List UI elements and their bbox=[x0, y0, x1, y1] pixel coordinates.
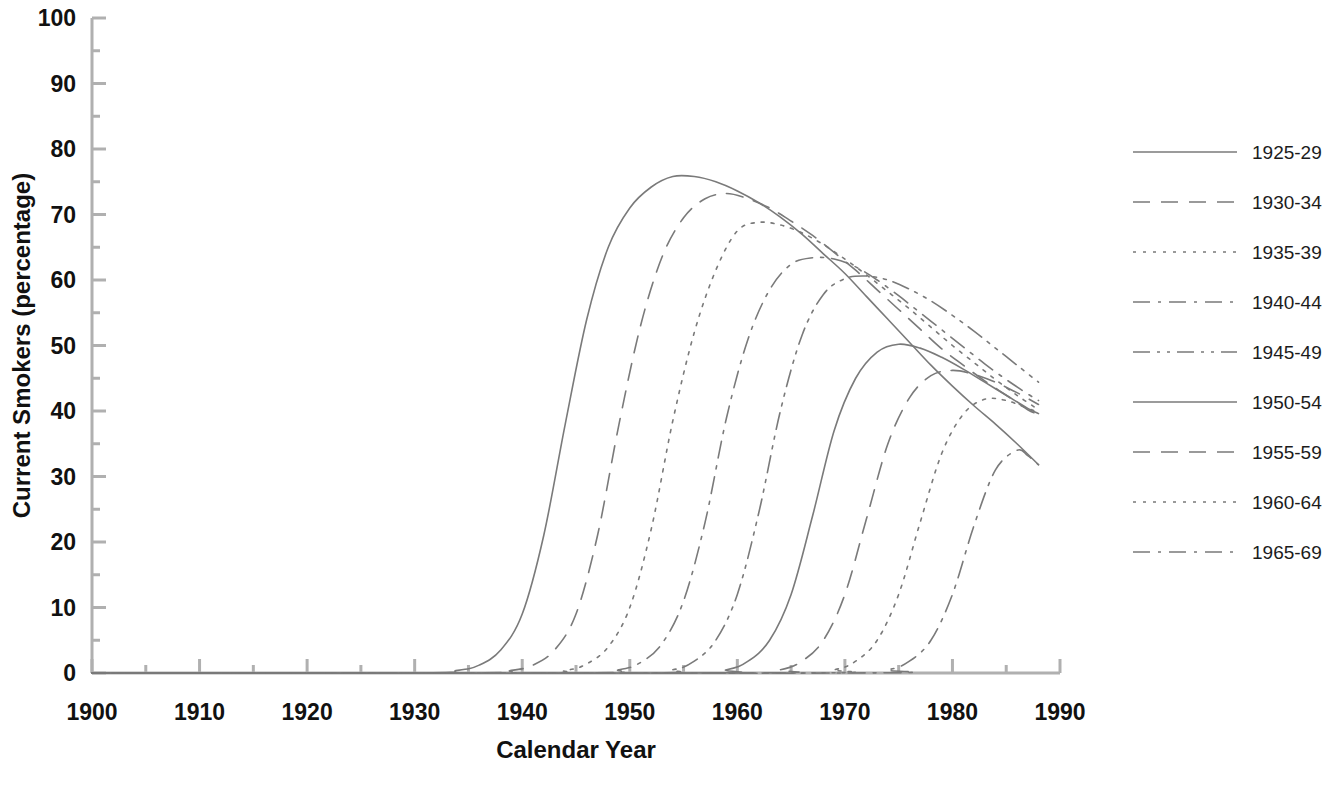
x-axis-tick-labels: 1900191019201930194019501960197019801990 bbox=[66, 699, 1085, 725]
y-axis-ticks bbox=[92, 18, 106, 673]
legend-label-1930-34[interactable]: 1930-34 bbox=[1252, 192, 1322, 213]
y-tick-label: 50 bbox=[50, 333, 76, 359]
series-line-1940-44 bbox=[92, 257, 1038, 673]
y-tick-label: 0 bbox=[63, 660, 76, 686]
axes-lines bbox=[92, 18, 1060, 673]
line-chart-canvas: Current Smokers (percentage) Calendar Ye… bbox=[0, 0, 1330, 787]
series-line-1930-34 bbox=[92, 194, 1038, 674]
x-tick-label: 1900 bbox=[66, 699, 117, 725]
series-line-1960-64 bbox=[92, 398, 1038, 673]
y-tick-label: 30 bbox=[50, 464, 76, 490]
legend-label-1965-69[interactable]: 1965-69 bbox=[1252, 542, 1322, 563]
chart-legend: 1925-291930-341935-391940-441945-491950-… bbox=[1133, 142, 1322, 563]
x-tick-label: 1930 bbox=[389, 699, 440, 725]
y-tick-label: 100 bbox=[38, 5, 76, 31]
series-line-1925-29 bbox=[92, 176, 1038, 674]
legend-label-1935-39[interactable]: 1935-39 bbox=[1252, 242, 1322, 263]
x-tick-label: 1940 bbox=[497, 699, 548, 725]
series-line-1935-39 bbox=[92, 222, 1038, 673]
y-tick-label: 40 bbox=[50, 398, 76, 424]
y-tick-label: 10 bbox=[50, 595, 76, 621]
series-line-1950-54 bbox=[92, 344, 1038, 673]
chart-figure: Current Smokers (percentage) Calendar Ye… bbox=[0, 0, 1330, 787]
y-tick-label: 80 bbox=[50, 136, 76, 162]
x-tick-label: 1910 bbox=[174, 699, 225, 725]
x-tick-label: 1990 bbox=[1034, 699, 1085, 725]
legend-label-1955-59[interactable]: 1955-59 bbox=[1252, 442, 1322, 463]
legend-label-1925-29[interactable]: 1925-29 bbox=[1252, 142, 1322, 163]
legend-label-1960-64[interactable]: 1960-64 bbox=[1252, 492, 1322, 513]
y-axis-title: Current Smokers (percentage) bbox=[8, 173, 35, 518]
x-tick-label: 1980 bbox=[927, 699, 978, 725]
x-tick-label: 1970 bbox=[819, 699, 870, 725]
y-axis-tick-labels: 0102030405060708090100 bbox=[38, 5, 76, 686]
data-series-group bbox=[92, 176, 1038, 674]
y-axis-title-text: Current Smokers (percentage) bbox=[8, 173, 35, 518]
legend-label-1940-44[interactable]: 1940-44 bbox=[1252, 292, 1322, 313]
y-tick-label: 90 bbox=[50, 71, 76, 97]
series-line-1945-49 bbox=[92, 276, 1038, 673]
y-tick-label: 70 bbox=[50, 202, 76, 228]
y-tick-label: 20 bbox=[50, 529, 76, 555]
legend-label-1945-49[interactable]: 1945-49 bbox=[1252, 342, 1322, 363]
x-tick-label: 1950 bbox=[604, 699, 655, 725]
series-line-1965-69 bbox=[92, 450, 1038, 674]
x-tick-label: 1920 bbox=[282, 699, 333, 725]
x-tick-label: 1960 bbox=[712, 699, 763, 725]
x-axis-title-text: Calendar Year bbox=[496, 736, 656, 763]
series-line-1955-59 bbox=[92, 370, 1038, 673]
x-axis-ticks bbox=[92, 659, 1060, 673]
legend-label-1950-54[interactable]: 1950-54 bbox=[1252, 392, 1322, 413]
x-axis-title: Calendar Year bbox=[496, 736, 656, 763]
y-tick-label: 60 bbox=[50, 267, 76, 293]
